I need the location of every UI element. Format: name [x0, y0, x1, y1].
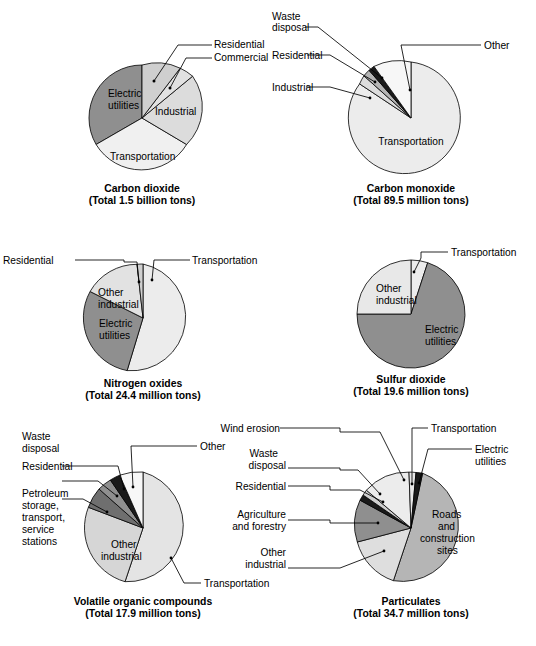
label-waste-disposal-line1: Waste: [272, 11, 301, 22]
label-transportation: Transportation: [110, 151, 175, 162]
label-agriculture-line1: Agriculture: [237, 509, 286, 520]
leader-dot-waste: [123, 488, 126, 491]
label-waste-disposal-line2: disposal: [272, 22, 309, 33]
label-other-industrial-line2: industrial: [98, 299, 139, 310]
leader-dot-waste: [379, 493, 382, 496]
label-roads-line2: and: [438, 521, 455, 532]
label-other-industrial-line1: Other: [376, 283, 402, 294]
chart-sulfur-dioxide: Transportation Other industrial Electric…: [353, 247, 516, 397]
leader-dot-petroleum: [106, 511, 109, 514]
leader-dot-residential: [382, 501, 385, 504]
label-residential: Residential: [3, 255, 53, 266]
label-petroleum-line1: Petroleum: [22, 488, 68, 499]
label-electric-utilities-line1: Electric: [99, 318, 132, 329]
leader-dot-wind-erosion: [403, 479, 406, 482]
label-petroleum-line5: stations: [22, 536, 57, 547]
label-roads-line4: sites: [437, 545, 458, 556]
caption-title: Nitrogen oxides: [104, 378, 183, 389]
leader-dot-transportation: [413, 271, 416, 274]
label-electric-utilities-line2: utilities: [475, 456, 506, 467]
caption-title: Carbon monoxide: [367, 183, 456, 194]
label-other: Other: [484, 40, 510, 51]
label-other: Other: [200, 441, 226, 452]
label-petroleum-line2: storage,: [22, 500, 59, 511]
label-roads-line1: Roads: [432, 509, 461, 520]
label-electric-utilities-line2: utilities: [425, 336, 456, 347]
label-commercial: Commercial: [214, 52, 268, 63]
caption-total: (Total 17.9 million tons): [85, 608, 200, 619]
label-industrial: Industrial: [272, 82, 313, 93]
label-roads-line3: construction: [420, 533, 475, 544]
leader-dot-transportation: [411, 483, 414, 486]
chart-carbon-dioxide: Residential Commercial Electric utilitie…: [89, 39, 269, 206]
label-residential: Residential: [214, 39, 264, 50]
label-other-industrial-line2: industrial: [245, 559, 286, 570]
label-industrial: Industrial: [155, 106, 196, 117]
leader-dot-electric-utilities: [418, 482, 421, 485]
caption-title: Sulfur dioxide: [376, 374, 445, 385]
label-residential: Residential: [22, 461, 72, 472]
caption-total: (Total 89.5 million tons): [353, 195, 468, 206]
leader-dot-residential: [153, 80, 156, 83]
chart-nitrogen-oxides: Residential Transportation Other industr…: [3, 255, 257, 401]
label-waste-disposal-line1: Waste: [250, 448, 279, 459]
caption-total: (Total 1.5 billion tons): [89, 195, 196, 206]
label-waste-disposal-line2: disposal: [22, 443, 59, 454]
label-other-industrial-line2: industrial: [376, 295, 417, 306]
label-electric-utilities-line1: Electric: [475, 444, 508, 455]
label-waste-disposal-line2: disposal: [249, 460, 286, 471]
caption-title: Volatile organic compounds: [74, 596, 213, 607]
label-transportation: Transportation: [431, 423, 496, 434]
label-electric-utilities-line2: utilities: [108, 100, 139, 111]
caption-title: Carbon dioxide: [104, 183, 180, 194]
leader-dot-other: [409, 89, 412, 92]
label-agriculture-line2: and forestry: [232, 521, 287, 532]
label-transportation: Transportation: [204, 578, 269, 589]
leader-dot-transportation: [151, 279, 154, 282]
chart-particulates: Wind erosion Waste disposal Residential …: [221, 423, 509, 619]
label-petroleum-line3: transport,: [22, 512, 65, 523]
label-transportation: Transportation: [451, 247, 516, 258]
leader-dot-waste: [381, 77, 384, 80]
leader-dot-agriculture: [377, 522, 380, 525]
label-petroleum-line4: service: [22, 524, 55, 535]
label-electric-utilities-line1: Electric: [108, 88, 141, 99]
leader-dot-industrial: [369, 97, 372, 100]
leader-dot-other: [132, 486, 135, 489]
figure-sheet: Residential Commercial Electric utilitie…: [0, 0, 536, 646]
label-other-industrial-line2: industrial: [101, 551, 142, 562]
caption-total: (Total 19.6 million tons): [353, 386, 468, 397]
label-transportation: Transportation: [378, 136, 443, 147]
leader-dot-commercial: [169, 87, 172, 90]
leader-dot-residential: [116, 495, 119, 498]
leader-transportation: [171, 558, 201, 583]
label-residential: Residential: [272, 50, 322, 61]
caption-total: (Total 34.7 million tons): [353, 608, 468, 619]
caption-title: Particulates: [382, 596, 441, 607]
chart-carbon-monoxide: Waste disposal Residential Industrial Ot…: [272, 11, 510, 206]
leader-dot-residential: [374, 81, 377, 84]
label-other-industrial-line1: Other: [111, 539, 137, 550]
label-electric-utilities-line1: Electric: [425, 324, 458, 335]
label-other-industrial-line1: Other: [261, 547, 287, 558]
label-transportation: Transportation: [192, 255, 257, 266]
leader-dot-other-industrial: [383, 550, 386, 553]
caption-total: (Total 24.4 million tons): [85, 390, 200, 401]
pie-chart-figure: Residential Commercial Electric utilitie…: [0, 0, 536, 646]
label-wind-erosion: Wind erosion: [221, 423, 280, 434]
label-other-industrial-line1: Other: [98, 287, 124, 298]
label-waste-disposal-line1: Waste: [22, 431, 51, 442]
label-electric-utilities-line2: utilities: [99, 330, 130, 341]
leader-dot-transportation: [170, 557, 173, 560]
label-residential: Residential: [236, 481, 286, 492]
leader-dot-residential: [138, 281, 141, 284]
leader-wind-erosion: [280, 428, 404, 480]
